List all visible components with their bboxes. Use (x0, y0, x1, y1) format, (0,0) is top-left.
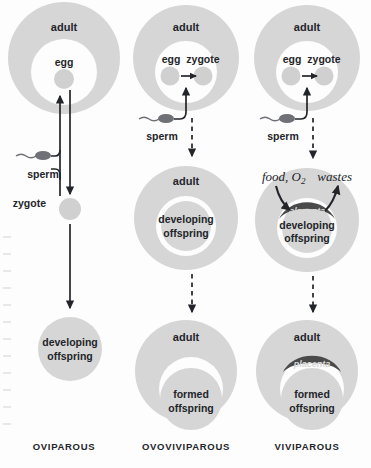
sperm-head-icon (158, 114, 174, 123)
oviparous-offspring-label-1: developing (42, 336, 97, 348)
ovoviviparous-developing-label-1: developing (158, 213, 213, 225)
sperm-head-icon (35, 151, 51, 160)
ovoviviparous-zygote-label: zygote (186, 53, 219, 65)
sperm-tail-icon (260, 117, 280, 121)
oviparous-sperm-label: sperm (27, 168, 59, 180)
ovoviviparous-formed-label-2: offspring (168, 402, 214, 414)
viviparous-zygote-cell (315, 67, 334, 86)
oviparous-zygote: zygote (13, 197, 81, 220)
sperm-path-upper (51, 150, 60, 156)
reproduction-patterns-diagram: adult egg sperm zygote developi (0, 0, 371, 468)
oviparous-egg-label: egg (55, 56, 74, 68)
oviparous-offspring-label-2: offspring (47, 350, 93, 362)
viviparous-developing-label-1: developing (279, 219, 334, 231)
oviparous-zygote-label: zygote (13, 197, 46, 209)
sperm-head-icon (279, 114, 295, 123)
column-ovoviviparous: adult egg zygote sperm adult developing … (133, 5, 239, 430)
ovoviviparous-sperm-label: sperm (146, 130, 178, 142)
oviparous-sperm: sperm (16, 150, 60, 180)
oviparous-egg: egg (54, 56, 74, 89)
exchange-inflow-label: food, O2 (262, 169, 306, 186)
caption-oviparous: OVIPAROUS (33, 441, 96, 452)
viviparous-zygote-label: zygote (307, 53, 340, 65)
ovoviviparous-zygote-cell (194, 67, 213, 86)
viviparous-formed-label-2: offspring (289, 402, 335, 414)
oviparous-developing-offspring: developing offspring (38, 317, 102, 381)
viviparous-placenta-label: placenta (288, 206, 326, 216)
viviparous-egg-cell (282, 67, 301, 86)
ovoviviparous-egg-cell (161, 67, 180, 86)
ovoviviparous-developing-label-2: offspring (163, 227, 209, 239)
sperm-tail-icon (139, 117, 159, 121)
ovoviviparous-egg-label: egg (162, 53, 181, 65)
page-margin-bleed (3, 236, 11, 426)
viviparous-adult-placenta-formed: adult placenta formed offspring (256, 320, 358, 430)
oviparous-adult-label: adult (51, 21, 78, 33)
viviparous-adult-label-1: adult (294, 21, 321, 33)
column-viviparous: adult egg zygote sperm placenta developi… (254, 5, 360, 430)
viviparous-adult-placenta-developing: placenta developing offspring food, O2 w… (255, 168, 359, 272)
sperm-tail-icon (16, 154, 36, 158)
viviparous-developing-label-2: offspring (284, 232, 330, 244)
viviparous-adult-label-3: adult (294, 331, 321, 343)
ovoviviparous-adult-label-3: adult (173, 331, 200, 343)
ovoviviparous-adult-developing: adult developing offspring (134, 166, 238, 270)
viviparous-egg-label: egg (283, 53, 302, 65)
ovoviviparous-adult-formed: adult formed offspring (135, 320, 237, 430)
caption-viviparous: VIVIPAROUS (275, 441, 340, 452)
ovoviviparous-offspring-mass (161, 201, 211, 251)
viviparous-placenta-label-2: placenta (293, 359, 331, 369)
column-oviparous: adult egg sperm zygote developi (8, 2, 120, 381)
viviparous-formed-label-1: formed (294, 388, 330, 400)
ovoviviparous-formed-label-1: formed (173, 388, 209, 400)
ovoviviparous-adult-label-2: adult (173, 175, 200, 187)
exchange-outflow-label: wastes (317, 169, 352, 184)
viviparous-sperm-label: sperm (267, 130, 299, 142)
caption-ovoviviparous: OVOVIVIPAROUS (142, 441, 230, 452)
ovoviviparous-adult-label-1: adult (173, 21, 200, 33)
